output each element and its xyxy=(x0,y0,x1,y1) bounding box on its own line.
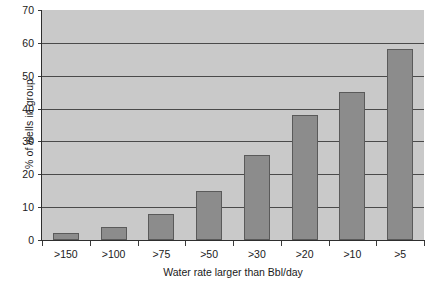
x-axis-tick-mark xyxy=(42,241,43,246)
y-axis-tick-label: 30 xyxy=(0,136,34,146)
x-axis-tick-mark xyxy=(90,241,91,246)
x-axis-tick-label: >75 xyxy=(152,248,170,261)
bar-slot xyxy=(185,10,233,240)
bar[interactable] xyxy=(387,49,413,240)
bar[interactable] xyxy=(148,214,174,240)
x-axis-tick-label: >100 xyxy=(102,248,126,261)
x-axis-tick-label: >30 xyxy=(248,248,266,261)
x-axis-tick-label: >150 xyxy=(54,248,78,261)
x-axis-tick-mark xyxy=(424,241,425,246)
y-axis-tick-label: 40 xyxy=(0,104,34,114)
bar-slot xyxy=(90,10,138,240)
x-axis-tick-marks xyxy=(0,241,434,247)
x-axis-tick-mark xyxy=(185,241,186,246)
y-axis-tick-label: 60 xyxy=(0,38,34,48)
plot-area xyxy=(42,10,424,240)
bar[interactable] xyxy=(339,92,365,240)
x-axis-tick-mark xyxy=(376,241,377,246)
bar-chart: % of wells in group 010203040506070 >150… xyxy=(0,0,434,285)
y-axis-tick-label: 10 xyxy=(0,202,34,212)
y-axis-tick-label: 20 xyxy=(0,169,34,179)
bar[interactable] xyxy=(101,227,127,240)
bar-slot xyxy=(138,10,186,240)
y-axis-tick-label: 70 xyxy=(0,5,34,15)
bar-slot xyxy=(42,10,90,240)
x-axis-title: Water rate larger than Bbl/day xyxy=(42,266,424,279)
x-axis-tick-label: >20 xyxy=(296,248,314,261)
x-axis-tick-mark xyxy=(329,241,330,246)
x-axis-tick-labels: >150>100>75>50>30>20>10>5 xyxy=(0,248,434,262)
x-axis-tick-label: >5 xyxy=(394,248,406,261)
bar[interactable] xyxy=(53,233,79,240)
x-axis-tick-mark xyxy=(233,241,234,246)
bar[interactable] xyxy=(196,191,222,240)
x-axis-tick-label: >50 xyxy=(200,248,218,261)
y-axis-tick-label: 50 xyxy=(0,71,34,81)
bars-layer xyxy=(42,10,424,240)
x-axis-tick-mark xyxy=(138,241,139,246)
x-axis-tick-mark xyxy=(281,241,282,246)
bar-slot xyxy=(329,10,377,240)
bar-slot xyxy=(376,10,424,240)
bar-slot xyxy=(233,10,281,240)
bar[interactable] xyxy=(292,115,318,240)
bar[interactable] xyxy=(244,155,270,240)
x-axis-tick-label: >10 xyxy=(343,248,361,261)
bar-slot xyxy=(281,10,329,240)
